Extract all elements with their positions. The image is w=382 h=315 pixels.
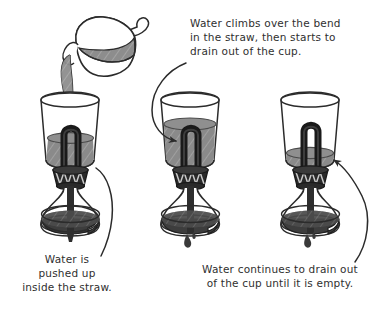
panel-2-full [161,92,220,248]
caption-left-line-2: pushed up [8,266,126,280]
caption-top-line-3: drain out of the cup. [190,44,341,58]
caption-climbs-over-bend: Water climbs over the bend in the straw,… [190,16,341,58]
caption-right-line-1: Water continues to drain out [182,262,378,276]
panel-3-draining [281,92,340,248]
flask-3 [281,186,340,248]
caption-left-line-3: inside the straw. [8,280,126,294]
flask-2 [161,186,220,248]
caption-pushed-up: Water is pushed up inside the straw. [8,252,126,294]
caption-left-line-1: Water is [8,252,126,266]
caption-continues-to-drain: Water continues to drain out of the cup … [182,262,378,290]
caption-top-line-1: Water climbs over the bend [190,16,341,30]
caption-right-line-2: of the cup until it is empty. [182,276,378,290]
panel-1-pouring [41,17,149,242]
flask-1 [41,186,100,242]
leader-line-right [334,160,368,262]
caption-top-line-2: in the straw, then starts to [190,30,341,44]
cup-3 [281,92,339,169]
